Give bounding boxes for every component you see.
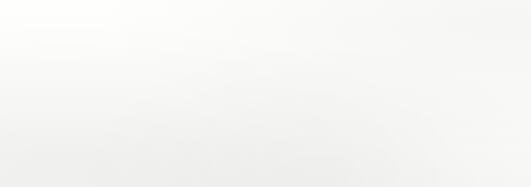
bar-row: 196529% (0, 26, 531, 45)
bar-row: 198045% (0, 92, 531, 111)
bar-row: 197537% (0, 70, 531, 89)
category-tick-label: 1960 (6, 9, 40, 21)
category-tick-label: 1965 (6, 31, 40, 43)
bar-1985 (45, 114, 412, 133)
category-tick-label: 1970 (6, 53, 40, 65)
category-tick-label: 1985 (6, 119, 40, 131)
bar-value-label: 53% (419, 119, 441, 130)
bar-value-label: 45% (365, 97, 387, 108)
bar-value-label: 30% (265, 53, 287, 64)
bar-row: 199059% (0, 136, 531, 155)
bar-value-label: 63% (490, 163, 512, 174)
bar-row: 198553% (0, 114, 531, 133)
category-axis-line (44, 0, 45, 182)
bar-1965 (45, 26, 252, 45)
bar-1975 (45, 70, 306, 89)
category-tick-label: 1996 (6, 163, 40, 175)
bar-1996 (45, 158, 483, 177)
bar-value-label: 59% (459, 141, 481, 152)
category-tick-label: 1990 (6, 141, 40, 153)
bar-1960 (45, 4, 185, 23)
bar-1990 (45, 136, 452, 155)
chart-plot-area: 196019%196529%197030%197537%198045%19855… (0, 0, 531, 187)
bar-1970 (45, 48, 258, 67)
bar-value-label: 19% (192, 9, 214, 20)
bar-1980 (45, 92, 358, 111)
bar-value-label: 37% (313, 75, 335, 86)
bar-value-label: 29% (259, 31, 281, 42)
bar-row: 199663% (0, 158, 531, 177)
bar-row: 196019% (0, 4, 531, 23)
category-tick-label: 1975 (6, 75, 40, 87)
bar-row: 197030% (0, 48, 531, 67)
horizontal-bar-chart: 196019%196529%197030%197537%198045%19855… (0, 0, 531, 187)
category-tick-label: 1980 (6, 97, 40, 109)
